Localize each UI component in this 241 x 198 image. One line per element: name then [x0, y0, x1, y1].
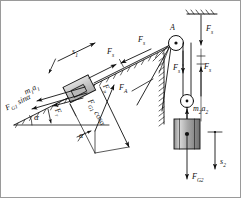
label-force-fs-strand-right: Fs [204, 63, 211, 73]
rope-tick [120, 60, 124, 68]
label-displacement-s1: s1 [72, 48, 78, 58]
label-force-m2a2: m2a2 [193, 105, 208, 115]
label-force-fs-rope-left: Fs [138, 36, 145, 46]
movable-pulley-axle [186, 100, 189, 103]
label-force-fs-incline: Fs [107, 48, 114, 58]
rope-incline [94, 45, 171, 84]
label-parallelogram-angle: α [79, 132, 83, 140]
label-point-a: A [170, 24, 175, 32]
ceiling-hatching [186, 10, 214, 14]
label-displacement-s2: s2 [220, 158, 226, 168]
label-force-fs-ceiling: Fs [206, 25, 213, 35]
diagram-canvas [1, 1, 240, 197]
strut-right-line [162, 47, 171, 111]
label-force-fg2: FG2 [192, 173, 204, 183]
displacement-s2-origin-dot [214, 131, 216, 133]
label-force-fa: FA [119, 84, 127, 94]
force-fa-leader [132, 79, 153, 91]
cylinder-center-dot [185, 132, 189, 136]
displacement-s1-tail-tick [49, 59, 56, 73]
label-incline-angle: α [34, 113, 39, 122]
physics-diagram-figure: A Fs Fs s1 m1a1 FG1 sinα Fr Fn FG1 cosα … [0, 0, 241, 198]
fixed-pulley-axle [174, 41, 177, 44]
force-fs-rope-left-arrow [121, 49, 151, 63]
label-force-fs-strand-left: Fs [173, 64, 180, 74]
